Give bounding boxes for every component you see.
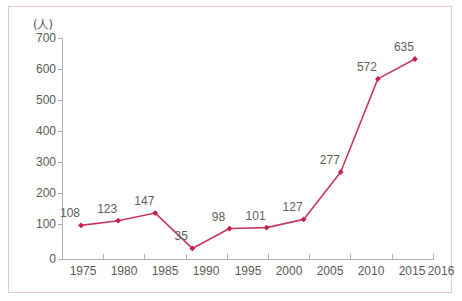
x-tick-label-1990: 1990 xyxy=(193,264,220,278)
data-point-label: 108 xyxy=(60,206,80,220)
data-point-marker xyxy=(375,76,381,82)
data-point-label: 147 xyxy=(134,194,154,208)
y-tick-label-700: 700 xyxy=(36,31,56,45)
data-point-label: 127 xyxy=(283,200,303,214)
x-tick-label-1975: 1975 xyxy=(70,264,97,278)
data-point-marker xyxy=(78,223,84,229)
x-tick-label-1995: 1995 xyxy=(235,264,262,278)
x-tick-label-2016: 2016 xyxy=(428,264,455,278)
y-tick-label-500: 500 xyxy=(36,93,56,107)
x-tick-label-2000: 2000 xyxy=(276,264,303,278)
data-point-label: 277 xyxy=(320,153,340,167)
data-point-marker xyxy=(412,56,418,62)
line-chart-plot: (人) 700 600 500 400 300 200 100 0 xyxy=(0,0,462,301)
y-tick-label-100: 100 xyxy=(36,217,56,231)
y-axis-unit-label: (人) xyxy=(33,18,53,32)
data-point-marker xyxy=(227,226,233,232)
x-tick-label-1980: 1980 xyxy=(111,264,138,278)
data-point-label: 572 xyxy=(357,60,377,74)
y-tick-label-300: 300 xyxy=(36,155,56,169)
data-point-label: 98 xyxy=(212,210,226,224)
data-point-marker xyxy=(115,218,121,224)
x-tick-label-2005: 2005 xyxy=(317,264,344,278)
y-tick-label-0: 0 xyxy=(49,252,56,266)
y-tick-label-400: 400 xyxy=(36,124,56,138)
data-point-label: 101 xyxy=(246,209,266,223)
data-point-label: 35 xyxy=(175,229,189,243)
x-tick-label-1985: 1985 xyxy=(152,264,179,278)
data-point-label: 123 xyxy=(97,202,117,216)
data-point-label: 635 xyxy=(394,40,414,54)
series-value-labels-group: 1081231473598101127277572635 xyxy=(60,40,414,243)
x-tick-label-2010: 2010 xyxy=(358,264,385,278)
chart-figure: (人) 700 600 500 400 300 200 100 0 xyxy=(0,0,462,301)
y-tick-label-600: 600 xyxy=(36,62,56,76)
y-tick-label-200: 200 xyxy=(36,186,56,200)
data-point-marker xyxy=(264,225,270,231)
x-tick-label-2015: 2015 xyxy=(399,264,426,278)
